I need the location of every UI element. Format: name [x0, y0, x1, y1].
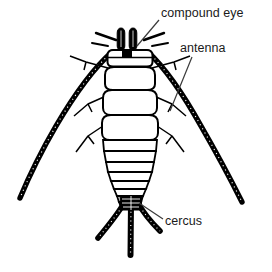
cercus-center [131, 203, 132, 255]
thorax [102, 67, 158, 140]
antenna-right [148, 52, 242, 202]
cerci-base [120, 196, 142, 210]
compound-eye-right [129, 28, 137, 50]
antenna-left [20, 52, 112, 198]
cercus-left [98, 203, 124, 238]
label-antenna: antenna [180, 42, 226, 55]
insect-diagram [0, 0, 272, 272]
figure-root: compound eye antenna cercus [0, 0, 272, 272]
compound-eye-left [117, 28, 125, 50]
label-cercus: cercus [165, 215, 202, 228]
head [108, 50, 153, 67]
leader-compound-eye [137, 20, 159, 46]
label-compound-eye: compound eye [161, 7, 244, 20]
